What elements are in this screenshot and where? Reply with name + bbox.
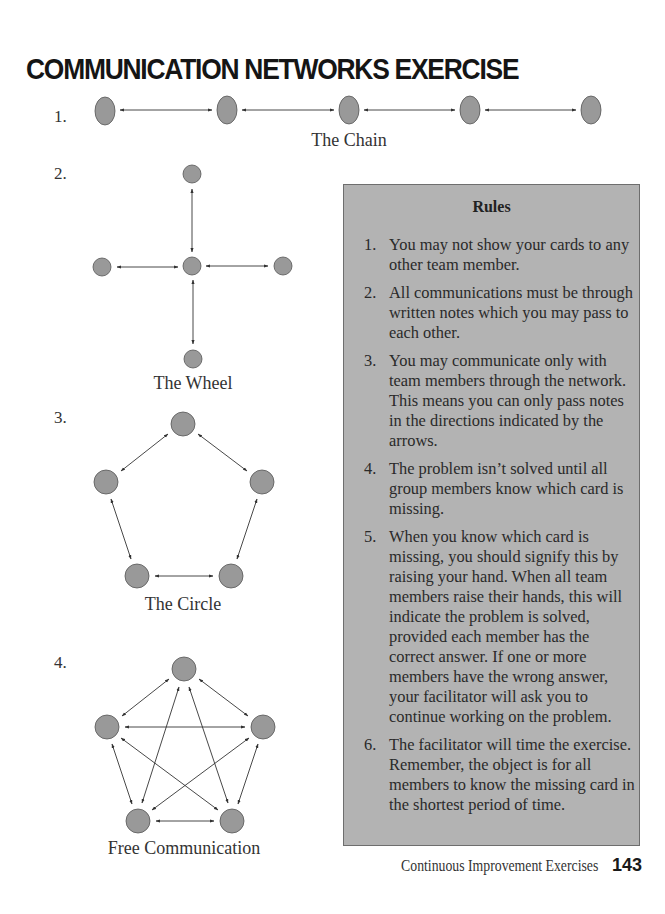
rule-text: All communications must be through writt…: [389, 283, 633, 342]
caption-chain: The Chain: [311, 130, 386, 151]
rule-text: You may not show your cards to any other…: [389, 235, 629, 274]
rule-item: 4.The problem isn’t solved until all gro…: [344, 459, 639, 519]
wheel-nodes: [93, 165, 292, 368]
rule-text: The facilitator will time the exercise. …: [389, 735, 635, 814]
rule-number: 2.: [364, 283, 376, 303]
page-number: 143: [612, 855, 642, 875]
caption-free-communication: Free Communication: [108, 838, 260, 859]
rules-heading: Rules: [344, 198, 639, 216]
rules-list: 1.You may not show your cards to any oth…: [344, 235, 639, 823]
rule-item: 3.You may communicate only with team mem…: [344, 351, 639, 451]
free-communication-links: [112, 679, 258, 821]
circle-links: [111, 434, 257, 576]
rule-text: The problem isn’t solved until all group…: [389, 459, 623, 518]
rule-item: 5.When you know which card is missing, y…: [344, 527, 639, 727]
rule-number: 3.: [364, 351, 376, 371]
rule-item: 2.All communications must be through wri…: [344, 283, 639, 343]
rule-item: 6.The facilitator will time the exercise…: [344, 735, 639, 815]
rule-number: 5.: [364, 527, 376, 547]
chain-nodes: [95, 96, 601, 125]
circle-nodes: [94, 412, 274, 588]
page-footer: Continuous Improvement Exercises143: [369, 855, 642, 876]
caption-wheel: The Wheel: [153, 373, 232, 394]
rule-text: You may communicate only with team membe…: [389, 351, 626, 450]
rules-box: Rules 1.You may not show your cards to a…: [343, 184, 640, 846]
free-communication-nodes: [95, 657, 275, 833]
footer-book-section: Continuous Improvement Exercises: [401, 857, 598, 875]
rule-number: 6.: [364, 735, 376, 755]
caption-circle: The Circle: [145, 594, 221, 615]
rule-text: When you know which card is missing, you…: [389, 527, 622, 726]
rule-item: 1.You may not show your cards to any oth…: [344, 235, 639, 275]
rule-number: 1.: [364, 235, 376, 255]
rule-number: 4.: [364, 459, 376, 479]
